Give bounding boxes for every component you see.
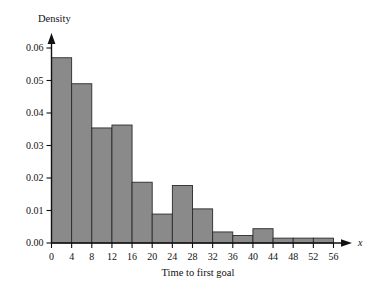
x-axis-arrowhead bbox=[341, 239, 352, 247]
x-tick-label: 8 bbox=[89, 251, 94, 262]
y-axis-title: Density bbox=[38, 13, 71, 24]
x-tick-label: 32 bbox=[208, 251, 218, 262]
histogram-bar bbox=[193, 209, 213, 243]
y-tick-label: 0.05 bbox=[26, 75, 44, 86]
histogram-bar bbox=[273, 238, 293, 243]
x-axis-title: Time to first goal bbox=[162, 267, 235, 278]
x-axis-variable-label: x bbox=[357, 237, 363, 248]
histogram-bar bbox=[132, 182, 152, 243]
x-tick-label: 52 bbox=[308, 251, 318, 262]
y-tick-label: 0.03 bbox=[26, 140, 44, 151]
x-tick-label: 48 bbox=[288, 251, 298, 262]
x-tick-label: 56 bbox=[329, 251, 339, 262]
y-tick-label: 0.02 bbox=[26, 172, 44, 183]
x-tick-label: 16 bbox=[127, 251, 137, 262]
x-tick-label: 0 bbox=[49, 251, 54, 262]
y-tick-label: 0.01 bbox=[26, 205, 44, 216]
x-tick-label: 24 bbox=[167, 251, 177, 262]
y-tick-label: 0.06 bbox=[26, 42, 44, 53]
histogram-bars bbox=[52, 58, 334, 243]
histogram-bar bbox=[213, 232, 233, 243]
histogram-bar bbox=[313, 238, 333, 243]
x-tick-label: 20 bbox=[147, 251, 157, 262]
x-tick-label: 28 bbox=[188, 251, 198, 262]
histogram-bar bbox=[152, 214, 172, 243]
histogram-bar bbox=[253, 229, 273, 243]
density-histogram-plot: 0.000.010.020.030.040.050.06 04812162024… bbox=[0, 0, 372, 291]
x-tick-label: 12 bbox=[107, 251, 117, 262]
x-tick-label: 40 bbox=[248, 251, 258, 262]
y-tick-label: 0.04 bbox=[26, 107, 44, 118]
histogram-bar bbox=[172, 185, 192, 243]
y-axis-arrowhead bbox=[48, 33, 56, 44]
histogram-bar bbox=[92, 128, 112, 243]
x-axis-ticks: 048121620242832364044485256 bbox=[49, 243, 339, 262]
histogram-bar bbox=[52, 58, 72, 243]
histogram-figure: 0.000.010.020.030.040.050.06 04812162024… bbox=[0, 0, 372, 291]
y-tick-label: 0.00 bbox=[26, 237, 44, 248]
x-tick-label: 36 bbox=[228, 251, 238, 262]
histogram-bar bbox=[233, 236, 253, 243]
y-axis-ticks: 0.000.010.020.030.040.050.06 bbox=[26, 42, 52, 248]
x-tick-label: 44 bbox=[268, 251, 278, 262]
histogram-bar bbox=[293, 238, 313, 243]
x-tick-label: 4 bbox=[69, 251, 74, 262]
histogram-bar bbox=[72, 84, 92, 243]
histogram-bar bbox=[112, 125, 132, 243]
